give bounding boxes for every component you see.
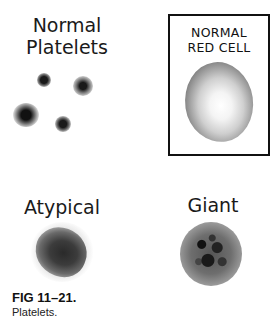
- platelet-2: [73, 76, 93, 96]
- normal-platelets-label: Normal Platelets: [14, 14, 120, 58]
- platelet-4: [55, 116, 71, 132]
- atypical-label: Atypical: [12, 196, 112, 218]
- giant-label: Giant: [168, 194, 258, 216]
- normal-red-cell-label-line1: NORMAL: [170, 25, 268, 40]
- normal-platelets-label-line2: Platelets: [14, 36, 120, 58]
- normal-platelets-label-line1: Normal: [14, 14, 120, 36]
- red-cell-illustration: [180, 58, 258, 147]
- figure-caption-title: FIG 11–21.: [12, 290, 76, 305]
- giant-platelet-illustration: [180, 222, 242, 286]
- normal-red-cell-panel: NORMAL RED CELL: [168, 14, 270, 156]
- platelet-1: [37, 73, 51, 87]
- platelet-3: [13, 103, 39, 127]
- normal-red-cell-label-line2: RED CELL: [170, 40, 268, 55]
- figure-caption-text: Platelets.: [12, 306, 57, 319]
- normal-red-cell-label: NORMAL RED CELL: [170, 25, 268, 55]
